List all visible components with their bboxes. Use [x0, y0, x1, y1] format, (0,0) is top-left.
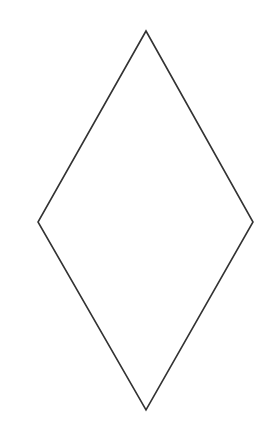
diagram-canvas — [0, 0, 277, 431]
rhombus-shape — [38, 31, 253, 410]
